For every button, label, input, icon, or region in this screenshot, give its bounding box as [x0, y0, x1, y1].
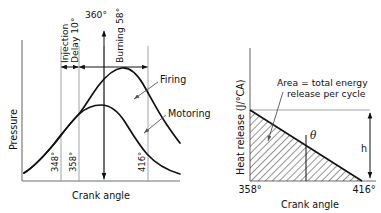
area-note-line2: release per cycle — [287, 88, 366, 99]
left-x-axis-label: Crank angle — [72, 190, 130, 201]
motoring-leader-line — [144, 115, 166, 133]
curve-label-motoring: Motoring — [168, 108, 211, 119]
label-delay: Delay 10° — [69, 17, 80, 63]
firing-leader-line — [134, 82, 158, 99]
h-label: h — [361, 143, 367, 154]
label-tdc-360: 360° — [85, 9, 107, 20]
marker-label-348: 348° — [50, 152, 60, 172]
curve-label-firing: Firing — [160, 74, 186, 85]
marker-label-416: 416° — [137, 152, 147, 172]
left-chart: Injection Delay 10° Burning 360° 58° 348… — [8, 8, 211, 201]
right-xtick-end: 416° — [352, 184, 375, 195]
right-y-axis-label: Heat release (J/°CA) — [235, 80, 246, 175]
label-burning: Burning — [114, 27, 125, 63]
area-note-line1: Area = total energy — [277, 77, 368, 88]
figure-root: Injection Delay 10° Burning 360° 58° 348… — [0, 0, 381, 213]
label-burning-value-58: 58° — [114, 8, 125, 24]
figure-svg: Injection Delay 10° Burning 360° 58° 348… — [0, 0, 381, 213]
right-xtick-start: 358° — [238, 184, 261, 195]
right-x-axis-label: Crank angle — [281, 199, 339, 210]
motoring-curve — [24, 105, 180, 174]
theta-label: θ — [310, 129, 317, 141]
firing-curve — [24, 68, 180, 173]
right-chart: θ h Area = total energy release per cycl… — [235, 48, 376, 210]
left-y-axis-label: Pressure — [8, 109, 19, 150]
marker-label-358: 358° — [68, 152, 78, 172]
